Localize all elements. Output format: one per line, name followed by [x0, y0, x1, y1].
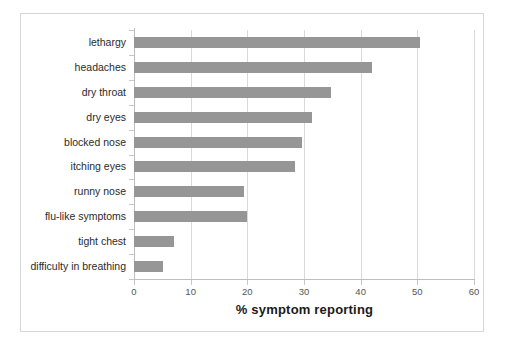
x-tick-label-40: 40	[355, 286, 366, 297]
x-tick-label-50: 50	[412, 286, 423, 297]
bar	[134, 161, 295, 172]
bar-row: flu-like symptoms	[134, 204, 474, 229]
bar	[134, 236, 174, 247]
bar	[134, 137, 302, 148]
category-label: dry throat	[82, 87, 126, 98]
bar-row: blocked nose	[134, 130, 474, 155]
bar	[134, 87, 331, 98]
category-label: flu-like symptoms	[45, 211, 126, 222]
bar	[134, 186, 244, 197]
bar	[134, 261, 163, 272]
bar	[134, 211, 247, 222]
bar-row: lethargy	[134, 30, 474, 55]
bar-row: difficulty in breathing	[134, 254, 474, 279]
bar-row: tight chest	[134, 229, 474, 254]
category-label: difficulty in breathing	[30, 261, 126, 272]
x-tick-label-60: 60	[469, 286, 480, 297]
category-label: runny nose	[74, 186, 126, 197]
x-tick-50	[417, 280, 418, 285]
bar	[134, 112, 312, 123]
x-axis-title: % symptom reporting	[134, 302, 475, 317]
category-label: blocked nose	[64, 137, 126, 148]
x-tick-60	[474, 280, 475, 285]
category-label: lethargy	[89, 37, 126, 48]
x-tick-label-0: 0	[131, 286, 136, 297]
bar-row: headaches	[134, 55, 474, 80]
category-label: dry eyes	[86, 112, 126, 123]
category-label: tight chest	[78, 236, 126, 247]
bar-row: itching eyes	[134, 155, 474, 180]
category-label: itching eyes	[71, 161, 126, 172]
x-tick-40	[361, 280, 362, 285]
x-tick-label-20: 20	[242, 286, 253, 297]
bar-row: runny nose	[134, 179, 474, 204]
bar-row: dry throat	[134, 80, 474, 105]
x-tick-10	[191, 280, 192, 285]
x-tick-30	[304, 280, 305, 285]
gridline-60	[474, 30, 475, 279]
x-tick-20	[247, 280, 248, 285]
category-label: headaches	[75, 62, 126, 73]
plot-area: lethargyheadachesdry throatdry eyesblock…	[134, 30, 474, 279]
x-tick-label-30: 30	[299, 286, 310, 297]
bar-row: dry eyes	[134, 105, 474, 130]
x-tick-label-10: 10	[185, 286, 196, 297]
x-tick-0	[134, 280, 135, 285]
bar	[134, 62, 372, 73]
chart-figure: 0102030405060 lethargyheadachesdry throa…	[20, 13, 484, 332]
bar	[134, 37, 420, 48]
